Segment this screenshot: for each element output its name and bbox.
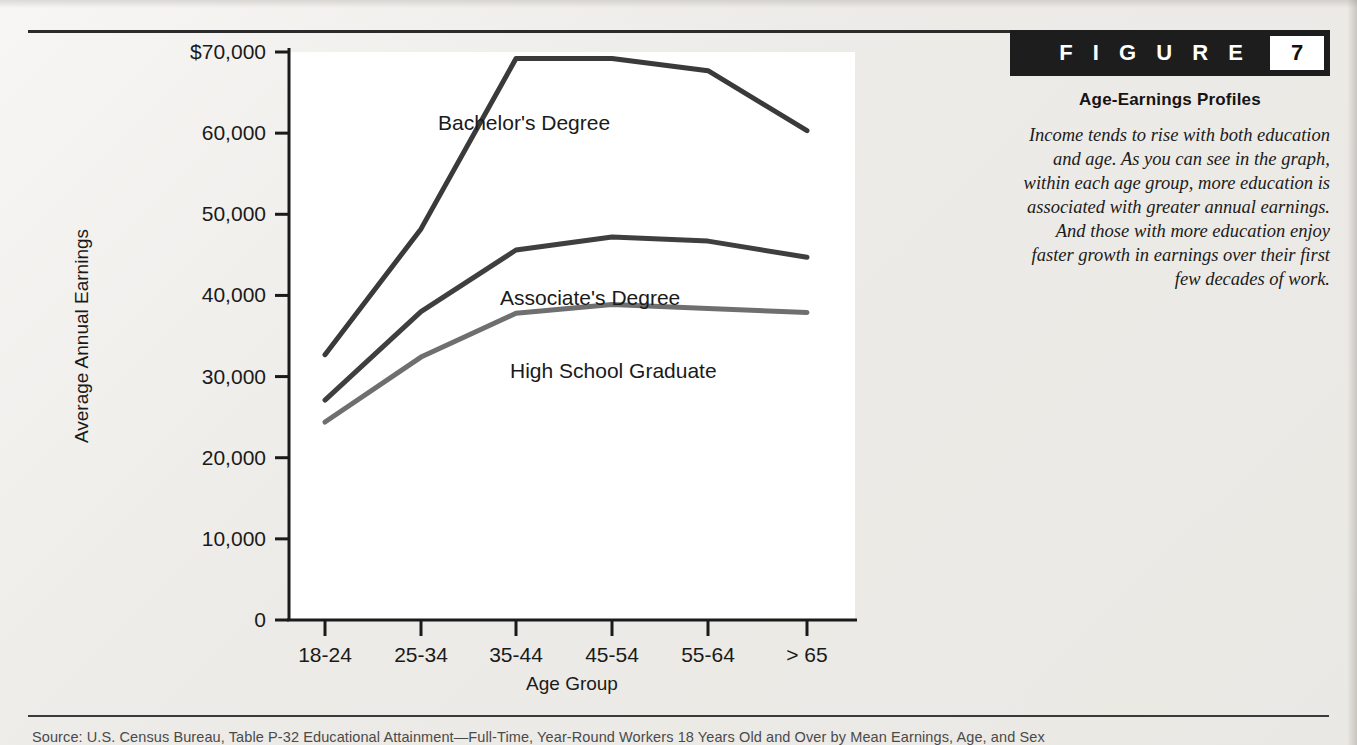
- figure-page: 010,00020,00030,00040,00050,00060,000$70…: [0, 0, 1357, 745]
- age-earnings-line-chart: 010,00020,00030,00040,00050,00060,000$70…: [0, 30, 1000, 702]
- x-tick-label: 18-24: [298, 643, 352, 666]
- page-right-shadow: [1347, 0, 1357, 745]
- page-top-shadow: [0, 0, 1357, 8]
- source-note: Source: U.S. Census Bureau, Table P-32 E…: [32, 729, 1352, 745]
- figure-caption-text: Income tends to rise with both education…: [1010, 123, 1330, 291]
- figure-number: 7: [1270, 36, 1324, 70]
- figure-title: Age-Earnings Profiles: [1010, 90, 1330, 110]
- x-tick-label: > 65: [786, 643, 827, 666]
- x-axis-tick-labels: 18-2425-3435-4445-5455-64> 65: [298, 643, 828, 666]
- series-label: Bachelor's Degree: [438, 111, 610, 134]
- x-axis-ticks: [325, 620, 807, 636]
- y-axis-title: Average Annual Earnings: [71, 229, 92, 443]
- figure-banner: F I G U R E 7: [1010, 30, 1330, 76]
- chart-container: 010,00020,00030,00040,00050,00060,000$70…: [0, 30, 1000, 702]
- x-tick-label: 25-34: [394, 643, 448, 666]
- plot-background: [289, 52, 855, 620]
- y-tick-label: 60,000: [202, 121, 266, 144]
- y-tick-label: 20,000: [202, 446, 266, 469]
- y-tick-label: 0: [254, 608, 266, 631]
- figure-banner-word: F I G U R E: [1059, 42, 1270, 64]
- x-tick-label: 45-54: [585, 643, 639, 666]
- series-label: Associate's Degree: [500, 286, 680, 309]
- y-tick-label: 40,000: [202, 283, 266, 306]
- y-tick-label: 50,000: [202, 202, 266, 225]
- y-axis-ticks: [275, 52, 289, 620]
- source-divider-rule: [28, 715, 1329, 717]
- caption-column: F I G U R E 7 Age-Earnings Profiles Inco…: [1010, 30, 1330, 291]
- x-tick-label: 55-64: [681, 643, 735, 666]
- x-axis-title: Age Group: [526, 673, 618, 694]
- y-tick-label: 10,000: [202, 527, 266, 550]
- y-tick-label: 30,000: [202, 365, 266, 388]
- series-label: High School Graduate: [510, 359, 717, 382]
- y-axis-tick-labels: 010,00020,00030,00040,00050,00060,000$70…: [190, 40, 266, 631]
- x-tick-label: 35-44: [489, 643, 543, 666]
- y-tick-label: $70,000: [190, 40, 266, 63]
